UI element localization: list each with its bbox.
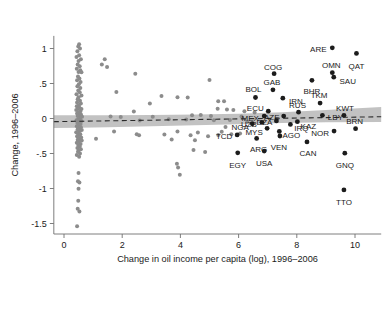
data-point xyxy=(75,55,79,59)
y-tick-label: -1 xyxy=(39,184,47,194)
data-point xyxy=(193,138,197,142)
data-point xyxy=(105,65,109,69)
country-code-label: CAN xyxy=(300,149,317,158)
data-point xyxy=(77,155,81,159)
y-tick-label: -1.5 xyxy=(31,219,47,229)
data-point xyxy=(206,134,210,138)
y-axis-title: Change, 1996–2006 xyxy=(10,93,20,176)
data-point xyxy=(76,199,80,203)
data-point-labeled xyxy=(288,122,293,127)
country-code-label: GAB xyxy=(263,78,280,87)
country-code-label: GNQ xyxy=(336,161,354,170)
data-point xyxy=(175,129,179,133)
data-point-labeled xyxy=(281,114,286,119)
country-code-label: TTO xyxy=(336,198,352,207)
country-code-label: NOR xyxy=(311,129,329,138)
data-point xyxy=(151,115,155,119)
data-point xyxy=(103,57,107,61)
data-point xyxy=(186,96,190,100)
country-code-label: BRN xyxy=(346,117,363,126)
x-tick-label: 2 xyxy=(120,240,125,250)
data-point-labeled xyxy=(235,133,240,138)
data-point-labeled xyxy=(280,96,285,101)
country-code-label: AGO xyxy=(282,131,300,140)
figure-container: AREQATCOGOMNSAUBHRGABBOLIRNTKMECURUSLBYK… xyxy=(0,0,386,313)
data-point-labeled xyxy=(331,75,336,80)
data-point xyxy=(199,113,203,117)
country-code-label: OMN xyxy=(322,61,341,70)
data-point xyxy=(148,101,152,105)
y-tick-label: 1 xyxy=(42,44,47,54)
data-point xyxy=(100,63,104,67)
data-point xyxy=(231,108,235,112)
data-point xyxy=(79,70,83,74)
data-point xyxy=(209,114,213,118)
y-tick-label: 0 xyxy=(42,114,47,124)
data-point xyxy=(170,138,174,142)
country-code-label: BOL xyxy=(245,85,262,94)
country-code-label: USA xyxy=(256,159,273,168)
x-tick-label: 6 xyxy=(236,240,241,250)
data-point xyxy=(112,129,116,133)
data-point-labeled xyxy=(296,110,301,115)
data-point xyxy=(77,187,81,191)
x-tick-label: 0 xyxy=(61,240,66,250)
data-point xyxy=(224,125,228,129)
y-axis-ticks: 1.50-.5-1-1.5 xyxy=(31,44,54,229)
country-code-label: TKM xyxy=(311,91,328,100)
data-point xyxy=(212,118,216,122)
data-point xyxy=(137,133,141,137)
data-point xyxy=(192,148,196,152)
data-point xyxy=(77,59,81,63)
data-point xyxy=(75,49,79,53)
data-point xyxy=(77,181,81,185)
data-point xyxy=(178,173,182,177)
data-point xyxy=(77,171,81,175)
data-point xyxy=(208,78,212,82)
country-code-label: SAU xyxy=(340,77,357,86)
country-code-label: ECU xyxy=(247,104,264,113)
data-point xyxy=(75,78,79,82)
data-point xyxy=(176,166,180,170)
data-point xyxy=(216,107,220,111)
country-code-label: TCD xyxy=(216,132,233,141)
data-point-labeled xyxy=(342,188,347,193)
data-point xyxy=(175,95,179,99)
data-point xyxy=(189,133,193,137)
data-point xyxy=(203,150,207,154)
data-point xyxy=(77,210,81,214)
data-point-labeled xyxy=(277,129,282,134)
data-point-labeled xyxy=(354,51,359,56)
data-point xyxy=(159,94,163,98)
x-axis-title: Change in oil income per capita (log), 1… xyxy=(117,254,318,264)
country-code-label: ARE xyxy=(310,45,326,54)
country-code-label: ARG xyxy=(250,145,267,154)
data-point xyxy=(75,224,79,228)
data-point xyxy=(167,117,171,121)
country-code-label: MYS xyxy=(245,128,262,137)
data-point-labeled xyxy=(253,95,258,100)
data-point-labeled xyxy=(235,150,240,155)
x-tick-label: 4 xyxy=(178,240,183,250)
data-point xyxy=(114,90,118,94)
x-axis-ticks: 0246810 xyxy=(61,234,360,250)
data-point-labeled xyxy=(332,129,337,134)
data-point xyxy=(242,109,246,113)
y-tick-label: .5 xyxy=(39,79,47,89)
data-point xyxy=(132,110,136,114)
data-point-labeled xyxy=(320,113,325,118)
data-point-labeled xyxy=(318,101,323,106)
x-tick-label: 8 xyxy=(294,240,299,250)
country-code-label: KWT xyxy=(336,104,354,113)
country-code-label: DZA xyxy=(256,118,273,127)
data-point xyxy=(190,113,194,117)
data-point xyxy=(225,107,229,111)
data-point xyxy=(196,131,200,135)
data-point xyxy=(162,133,166,137)
data-point-labeled xyxy=(330,70,335,75)
y-tick-label: -.5 xyxy=(36,149,47,159)
country-code-label: VEN xyxy=(271,143,288,152)
data-point-labeled xyxy=(310,78,315,83)
data-point-labeled xyxy=(305,140,310,145)
country-code-label: LBY xyxy=(328,113,344,122)
